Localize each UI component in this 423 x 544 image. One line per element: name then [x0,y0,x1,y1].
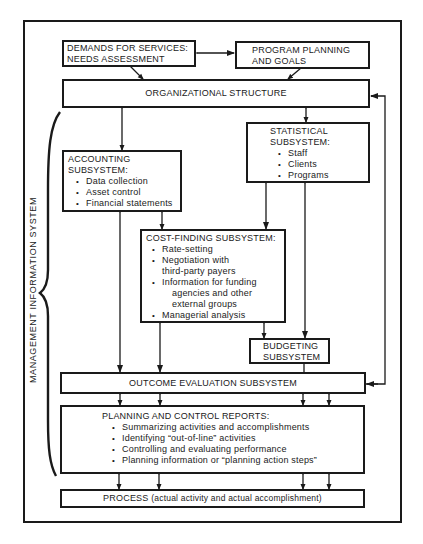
statistical-item: Clients [276,159,368,170]
cost-finding-item: Managerial analysis [150,310,280,321]
demands-node: DEMANDS FOR SERVICES: NEEDS ASSESSMENT [62,40,196,67]
program-planning-node: PROGRAM PLANNING AND GOALS [235,41,370,69]
planning-item: Planning information or “planning action… [110,455,363,466]
statistical-subsystem-node: STATISTICAL SUBSYSTEM: Staff Clients Pro… [246,122,370,183]
planning-item: Identifying “out-of-line” activities [110,433,363,444]
accounting-item: Financial statements [74,198,176,209]
planning-item: Controlling and evaluating performance [110,444,363,455]
accounting-item: Asset control [74,187,176,198]
planning-item: Summarizing activities and accomplishmen… [110,422,363,433]
brace [40,112,60,476]
outcome-evaluation-node: OUTCOME EVALUATION SUBSYSTEM [60,372,366,394]
management-information-system-label: MANAGEMENT INFORMATION SYSTEM [26,190,40,390]
cost-finding-subsystem-node: COST-FINDING SUBSYSTEM: Rate-setting Neg… [140,229,286,323]
process-node: PROCESS (actual activity and actual acco… [60,489,365,508]
planning-control-reports-node: PLANNING AND CONTROL REPORTS: Summarizin… [60,405,365,474]
statistical-item: Programs [276,170,368,181]
organizational-structure-node: ORGANIZATIONAL STRUCTURE [62,79,370,108]
cost-finding-item: Rate-setting [150,244,280,255]
statistical-item: Staff [276,148,368,159]
cost-finding-item: Information for fundingagencies and othe… [150,277,280,310]
cost-finding-item: Negotiation withthird-party payers [150,255,280,277]
accounting-item: Data collection [74,176,176,187]
accounting-subsystem-node: ACCOUNTING SUBSYSTEM: Data collection As… [62,150,182,212]
budgeting-subsystem-node: BUDGETING SUBSYSTEM [249,338,330,364]
